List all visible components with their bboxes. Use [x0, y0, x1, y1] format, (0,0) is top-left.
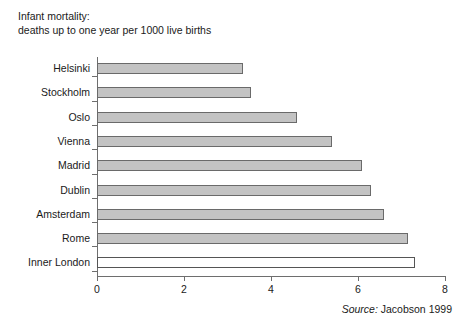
bar-helsinki[interactable]	[97, 63, 243, 74]
bar-vienna[interactable]	[97, 136, 332, 147]
x-axis-tick-2	[184, 276, 185, 281]
bar-band	[97, 81, 445, 105]
y-axis-label-inner-london: Inner London	[0, 256, 90, 268]
bar-band	[97, 106, 445, 130]
bar-madrid[interactable]	[97, 160, 362, 171]
y-axis-label-dublin: Dublin	[0, 184, 90, 196]
bar-chart: HelsinkiStockholmOsloViennaMadridDublinA…	[0, 0, 470, 326]
x-axis-tick-label-6: 6	[355, 283, 361, 295]
bar-dublin[interactable]	[97, 185, 371, 196]
bar-amsterdam[interactable]	[97, 209, 384, 220]
bar-oslo[interactable]	[97, 112, 297, 123]
y-axis-label-stockholm: Stockholm	[0, 86, 90, 98]
y-axis-label-rome: Rome	[0, 232, 90, 244]
x-axis-tick-label-8: 8	[442, 283, 448, 295]
x-axis-tick-label-0: 0	[94, 283, 100, 295]
y-axis-label-oslo: Oslo	[0, 111, 90, 123]
bar-band	[97, 130, 445, 154]
bar-band	[97, 251, 445, 275]
plot-area	[97, 57, 445, 276]
bar-inner-london[interactable]	[97, 257, 415, 268]
y-axis-label-madrid: Madrid	[0, 159, 90, 171]
x-axis-tick-4	[271, 276, 272, 281]
y-axis-label-helsinki: Helsinki	[0, 62, 90, 74]
y-axis-label-vienna: Vienna	[0, 135, 90, 147]
x-axis-tick-label-2: 2	[181, 283, 187, 295]
x-axis-tick-6	[358, 276, 359, 281]
y-axis-label-amsterdam: Amsterdam	[0, 208, 90, 220]
source-label: Source:	[342, 303, 378, 315]
bar-band	[97, 227, 445, 251]
bar-band	[97, 203, 445, 227]
bar-rome[interactable]	[97, 233, 408, 244]
source-value: Jacobson 1999	[381, 303, 452, 315]
bar-band	[97, 179, 445, 203]
source-note: Source: Jacobson 1999	[342, 303, 452, 315]
bar-band	[97, 57, 445, 81]
x-axis-tick-0	[97, 276, 98, 281]
x-axis-tick-8	[445, 276, 446, 281]
bar-stockholm[interactable]	[97, 87, 251, 98]
x-axis-tick-label-4: 4	[268, 283, 274, 295]
bar-band	[97, 154, 445, 178]
